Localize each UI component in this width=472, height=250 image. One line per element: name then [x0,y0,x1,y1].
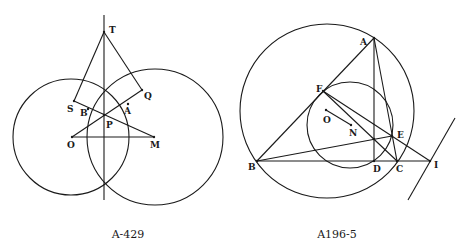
point-s [73,100,75,102]
label-m: M [150,140,160,150]
caption-a196-5: A196-5 [316,228,357,241]
point-t [103,31,105,33]
label-n: N [349,128,357,138]
label-i: I [434,160,438,170]
label-a: A [359,37,368,47]
segment-sm [74,101,154,137]
point-o [325,109,327,111]
label-c: C [396,164,403,174]
label-p: P [106,120,113,130]
figure-a196-5: AFONEBDCI [240,24,455,200]
caption-a-429: A-429 [111,228,145,241]
point-p [103,114,105,116]
point-d [373,160,375,162]
point-a [127,103,129,105]
label-q: Q [144,91,152,101]
point-i [429,160,431,162]
point-c [396,160,398,162]
point-o [71,136,73,138]
segment-ts [74,32,104,101]
label-e: E [397,130,404,140]
point-a [373,37,375,39]
point-q [141,89,143,91]
label-t: T [109,25,116,35]
geometry-figures: TSBAQPOM AFONEBDCI A-429 A196-5 [0,0,472,250]
tangent-line [408,118,455,200]
segment-tq [104,32,142,90]
label-f: F [316,84,323,94]
point-h [373,138,375,140]
label-d: D [373,164,381,174]
label-s: S [67,104,74,114]
point-n [350,124,352,126]
label-a: A [123,106,132,116]
point-b [256,160,258,162]
label-o: O [323,115,331,125]
point-m [153,136,155,138]
label-o: O [67,140,75,150]
label-b: B [248,162,256,172]
label-b: B [80,108,88,118]
figure-a-429: TSBAQPOM [13,15,223,205]
point-e [391,135,393,137]
